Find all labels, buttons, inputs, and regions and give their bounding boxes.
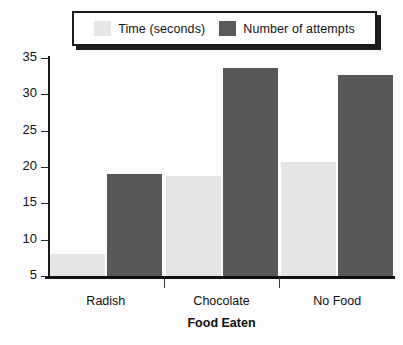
x-axis-category-separator [279,277,280,288]
y-axis-tick-label: 30 [23,85,37,100]
y-axis-tick-label: 10 [23,231,37,246]
x-axis-title: Food Eaten [48,316,395,330]
x-axis-line [45,276,395,279]
legend-label-attempts: Number of attempts [243,22,355,36]
y-axis-tick: 25 [41,131,48,132]
legend-swatch-time-icon [94,21,111,36]
bar-chart-figure: Time (seconds) Number of attempts 353025… [0,0,403,345]
y-axis-tick: 30 [41,94,48,95]
plot-area: 3530252015105 RadishChocolateNo Food Foo… [48,58,395,276]
y-axis-tick-label: 5 [30,267,37,282]
bar-no-food-attempts [338,75,393,276]
x-axis-category-label: Chocolate [193,294,249,308]
y-axis-tick: 15 [41,203,48,204]
bar-radish-time [50,254,105,276]
y-axis-tick: 10 [41,240,48,241]
chart-legend: Time (seconds) Number of attempts [72,11,377,46]
bar-chocolate-time [166,176,221,276]
legend-entry-time: Time (seconds) [94,21,205,36]
y-axis-tick: 35 [41,58,48,59]
x-axis-category-label: Radish [86,294,125,308]
legend-entry-attempts: Number of attempts [219,21,355,36]
y-axis-tick: 20 [41,167,48,168]
legend-swatch-attempts-icon [219,21,236,36]
y-axis-tick-label: 35 [23,49,37,64]
x-axis-category-separator [164,277,165,288]
bar-radish-attempts [107,174,162,276]
y-axis-tick: 5 [41,276,48,277]
legend-label-time: Time (seconds) [118,22,205,36]
bar-no-food-time [281,162,336,276]
y-axis-tick-label: 15 [23,194,37,209]
x-axis-category-label: No Food [313,294,361,308]
bar-chocolate-attempts [223,68,278,276]
y-axis-line [48,56,50,278]
y-axis-tick-label: 20 [23,158,37,173]
y-axis-tick-label: 25 [23,122,37,137]
